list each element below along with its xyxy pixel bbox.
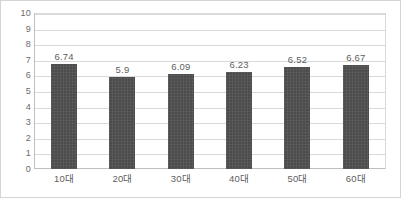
bar-group: 6.52 (268, 13, 326, 169)
bar-value-label: 5.9 (116, 65, 130, 75)
y-axis-tick-label: 0 (5, 165, 31, 174)
y-axis-tick-label: 1 (5, 149, 31, 158)
bar-value-label: 6.09 (171, 62, 190, 72)
bar[interactable] (109, 77, 135, 169)
bar-group: 5.9 (93, 13, 151, 169)
y-axis-tick-label: 9 (5, 24, 31, 33)
x-axis-tick-label: 40대 (229, 173, 249, 185)
y-axis-tick-label: 6 (5, 71, 31, 80)
y-axis-tick-label: 2 (5, 133, 31, 142)
bar[interactable] (168, 74, 194, 169)
y-axis-tick-label: 10 (5, 9, 31, 18)
x-axis-tick-label: 30대 (171, 173, 191, 185)
bar-chart: 109876543210 6.745.96.096.236.526.67 10대… (0, 0, 401, 198)
bar-value-label: 6.67 (346, 53, 365, 63)
bar-group: 6.67 (327, 13, 385, 169)
y-axis-tick-label: 4 (5, 102, 31, 111)
bar-group: 6.74 (35, 13, 93, 169)
y-axis-tick-label: 7 (5, 55, 31, 64)
bar-value-label: 6.74 (55, 52, 74, 62)
bar-value-label: 6.23 (230, 60, 249, 70)
x-axis-tick-label: 60대 (346, 173, 366, 185)
bars-layer: 6.745.96.096.236.526.67 (35, 13, 385, 169)
y-axis-tick-label: 5 (5, 87, 31, 96)
y-axis-tick-label: 8 (5, 40, 31, 49)
bar[interactable] (226, 72, 252, 169)
x-axis-tick-label: 50대 (287, 173, 307, 185)
bar-value-label: 6.52 (288, 55, 307, 65)
x-axis-tick-label: 20대 (112, 173, 132, 185)
bar[interactable] (343, 65, 369, 169)
bar[interactable] (284, 67, 310, 169)
x-axis-tick-label: 10대 (54, 173, 74, 185)
bar-group: 6.09 (152, 13, 210, 169)
y-axis: 109876543210 (1, 13, 31, 169)
x-axis: 10대20대30대40대50대60대 (35, 173, 385, 189)
bar[interactable] (51, 64, 77, 169)
bar-group: 6.23 (210, 13, 268, 169)
y-axis-tick-label: 3 (5, 118, 31, 127)
